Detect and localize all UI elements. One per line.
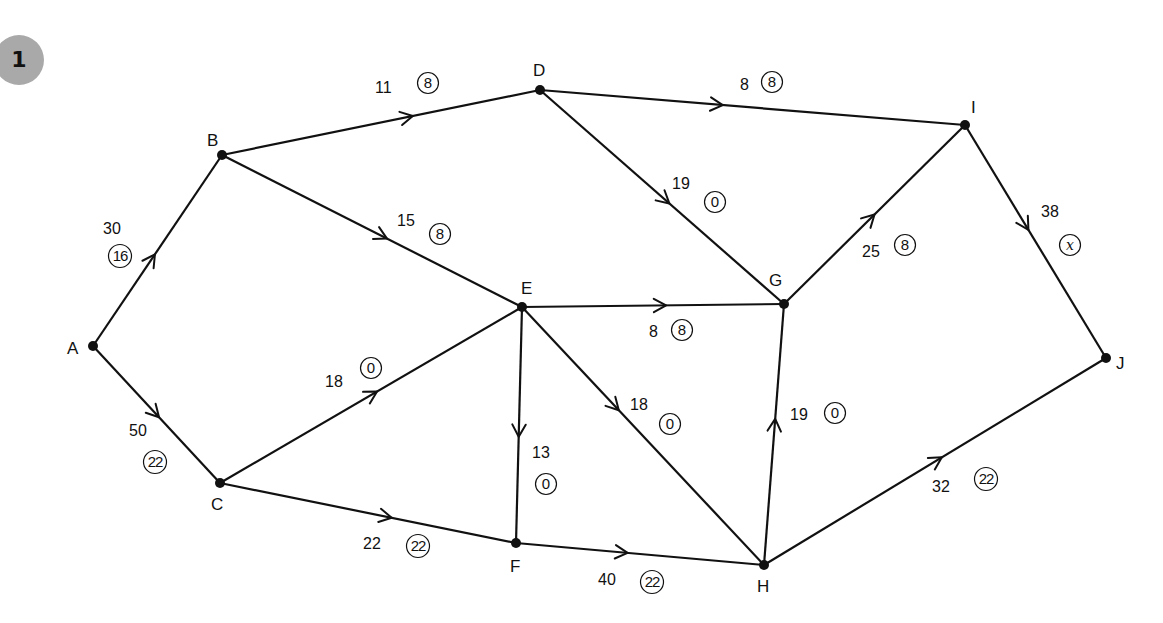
flow-label: 8 — [768, 73, 776, 90]
node-D: D — [533, 61, 545, 95]
edge-D-G: 190 — [540, 90, 784, 304]
flow-value: 8 — [430, 224, 451, 245]
capacity-label: 22 — [363, 535, 381, 552]
figure-number: 1 — [0, 35, 44, 85]
edge-A-B: 3016 — [93, 155, 222, 346]
flow-label: 22 — [148, 453, 163, 470]
flow-label: 0 — [367, 359, 375, 376]
capacity-label: 38 — [1041, 203, 1059, 220]
node-J: J — [1101, 353, 1125, 373]
edge-E-G: 88 — [522, 299, 784, 341]
flow-label: 22 — [411, 537, 426, 554]
edge-G-I: 258 — [784, 125, 965, 304]
node-dot — [88, 341, 98, 351]
edge-line — [540, 90, 784, 304]
flow-value: 8 — [418, 73, 439, 94]
flow-value: 0 — [536, 474, 557, 495]
flow-value: 0 — [705, 192, 726, 213]
node-label: I — [971, 98, 976, 117]
flow-label: 16 — [113, 247, 128, 264]
flow-label: 8 — [424, 74, 432, 91]
capacity-label: 8 — [649, 323, 658, 340]
edge-line — [220, 307, 522, 483]
network-canvas: 3016502211815888190881801301802222402219… — [0, 0, 1163, 623]
edge-B-E: 158 — [222, 155, 522, 307]
node-dot — [960, 120, 970, 130]
node-label: C — [211, 495, 223, 514]
node-dot — [217, 150, 227, 160]
node-dot — [759, 560, 769, 570]
node-label: J — [1116, 354, 1125, 373]
flow-label: 0 — [666, 415, 674, 432]
flow-label: 8 — [901, 236, 909, 253]
capacity-label: 18 — [630, 396, 648, 413]
flow-value: 0 — [825, 403, 846, 424]
flow-label: 8 — [436, 225, 444, 242]
edge-H-J: 3222 — [764, 358, 1106, 565]
flow-value: 0 — [361, 358, 382, 379]
capacity-label: 13 — [532, 444, 550, 461]
edges-layer: 3016502211815888190881801301802222402219… — [93, 72, 1106, 594]
edge-line — [522, 307, 764, 565]
node-label: A — [67, 339, 79, 358]
edge-line — [516, 307, 522, 543]
edge-H-G: 190 — [764, 304, 846, 565]
edge-line — [764, 304, 784, 565]
edge-F-H: 4022 — [516, 543, 764, 594]
node-C: C — [211, 478, 225, 514]
capacity-label: 19 — [672, 175, 690, 192]
node-I: I — [960, 98, 976, 130]
edge-line — [222, 155, 522, 307]
node-A: A — [67, 339, 98, 358]
node-label: E — [521, 279, 532, 298]
capacity-label: 8 — [740, 76, 749, 93]
edge-A-C: 5022 — [93, 346, 220, 483]
edge-line — [220, 483, 516, 543]
flow-label: 0 — [831, 404, 839, 421]
node-B: B — [207, 131, 227, 160]
edge-line — [222, 90, 540, 155]
flow-value: 8 — [672, 320, 693, 341]
edge-D-I: 88 — [540, 72, 965, 126]
flow-value: 22 — [641, 571, 664, 594]
flow-value: 22 — [144, 451, 167, 474]
flow-label: 22 — [979, 470, 994, 487]
edge-I-J: 38x — [965, 125, 1106, 358]
flow-value: 8 — [762, 72, 783, 93]
capacity-label: 32 — [932, 478, 950, 495]
capacity-label: 18 — [325, 373, 343, 390]
flow-label: 0 — [711, 193, 719, 210]
node-label: H — [757, 577, 769, 596]
flow-label: 22 — [645, 573, 660, 590]
capacity-label: 15 — [397, 212, 415, 229]
node-label: B — [207, 131, 218, 150]
node-dot — [779, 299, 789, 309]
edge-line — [516, 543, 764, 565]
node-label: F — [510, 557, 520, 576]
edge-E-F: 130 — [512, 307, 556, 543]
node-dot — [1101, 353, 1111, 363]
flow-network-diagram: 1 30165022118158881908818013018022224022… — [0, 0, 1163, 623]
edge-C-F: 2222 — [220, 483, 516, 558]
flow-value: 22 — [407, 535, 430, 558]
capacity-label: 11 — [375, 79, 392, 96]
capacity-label: 25 — [862, 243, 880, 260]
node-label: G — [769, 271, 782, 290]
node-dot — [511, 538, 521, 548]
edge-C-E: 180 — [220, 307, 522, 483]
flow-label: 0 — [542, 475, 550, 492]
flow-label: x — [1066, 237, 1074, 253]
figure-number-badge: 1 — [0, 35, 44, 85]
edge-B-D: 118 — [222, 73, 540, 156]
node-dot — [535, 85, 545, 95]
flow-value: x — [1060, 235, 1081, 256]
edge-E-H: 180 — [522, 307, 764, 565]
capacity-label: 40 — [598, 571, 616, 588]
capacity-label: 30 — [103, 220, 121, 237]
flow-value: 8 — [895, 235, 916, 256]
edge-line — [965, 125, 1106, 358]
edge-line — [522, 304, 784, 307]
capacity-label: 19 — [790, 406, 808, 423]
edge-line — [540, 90, 965, 125]
node-dot — [215, 478, 225, 488]
